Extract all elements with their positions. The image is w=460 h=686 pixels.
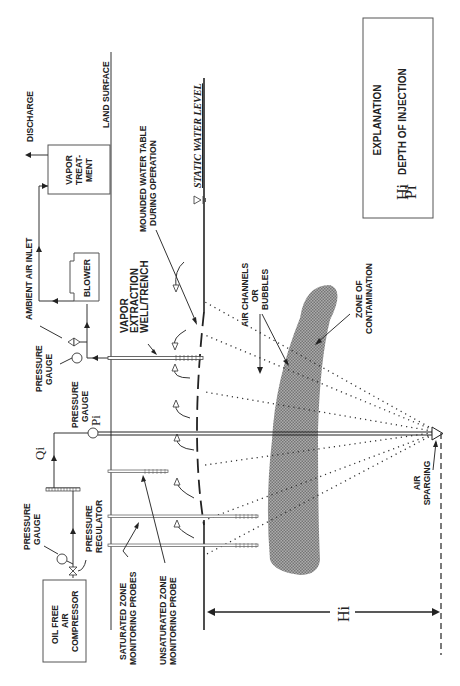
pressure-gauge-icon xyxy=(72,353,82,363)
land-surface-label: LAND SURFACE xyxy=(101,61,111,128)
saturated-probes-label-1: SATURATED ZONE xyxy=(118,583,128,660)
compressor-label-3: COMPRESSOR xyxy=(70,591,80,652)
air-sparging-diagram: EXPLANATION EXPLANATION Hi DEPTH OF INJE… xyxy=(0,0,460,686)
mounded-water-table xyxy=(197,312,204,525)
ambient-air-inlet-label: AMBIENT AIR INLET xyxy=(24,237,34,320)
pressure-regulator-label-1: PRESSURE xyxy=(84,505,94,552)
vapor-extraction-well xyxy=(108,357,203,360)
pi-symbol: Pi xyxy=(88,415,103,426)
blower-label: BLOWER xyxy=(82,259,92,297)
legend-symbol-hi: Hi xyxy=(394,183,411,200)
air-channels-label-3: BUBBLES xyxy=(260,269,270,310)
compressor-pressure-gauge-icon xyxy=(57,554,67,564)
hi-dimension: Hi xyxy=(207,605,440,622)
vapor-treatment-label-1: VAPOR xyxy=(64,155,74,185)
zone-of-contamination-label-1: ZONE OF xyxy=(354,280,364,318)
zone-of-contamination-label-2: CONTAMINATION xyxy=(364,263,374,334)
flow-meter xyxy=(46,488,80,491)
pi-pressure-gauge-icon xyxy=(88,428,98,438)
static-water-level-label: STATIC WATER LEVEL xyxy=(192,83,203,188)
legend-title-text: EXPLANATION xyxy=(372,85,383,156)
explanation-legend: EXPLANATION EXPLANATION Hi DEPTH OF INJE… xyxy=(363,18,433,218)
air-sparging-label-2: SPARGING xyxy=(422,460,432,505)
air-sparging-label-1: AIR xyxy=(412,476,422,491)
vapor-treatment-label-2: TREAT- xyxy=(74,155,84,185)
pressure-regulator-valve xyxy=(69,567,77,575)
mounded-water-table-label-1: MOUNDED WATER TABLE xyxy=(138,125,148,232)
zone-of-contamination xyxy=(268,285,338,575)
saturated-zone-probe-1 xyxy=(108,514,258,519)
ambient-air-valve xyxy=(68,338,87,346)
vapor-treatment-label-3: MENT xyxy=(84,157,94,182)
mounded-water-table-label-2: DURING OPERATION xyxy=(148,140,158,226)
air-channels-label-2: OR xyxy=(250,289,260,302)
hi-symbol: Hi xyxy=(335,605,352,622)
pressure-regulator-label-2: REGULATOR xyxy=(94,500,104,553)
unsaturated-probe-label-2: MONITORING PROBE xyxy=(168,577,178,665)
compressor-label-1: OIL FREE xyxy=(50,605,60,644)
pressure-gauge-label-3b: GAUGE xyxy=(32,514,42,546)
water-table-symbol xyxy=(194,196,201,204)
pressure-gauge-label-1a: PRESSURE xyxy=(34,345,44,392)
legend-label-hi: DEPTH OF INJECTION xyxy=(397,68,408,175)
unsaturated-probe-label-1: UNSATURATED ZONE xyxy=(158,575,168,665)
vapor-extraction-label-3: WELL/TRENCH xyxy=(139,260,150,333)
saturated-probes-label-2: MONITORING PROBES xyxy=(128,571,138,665)
air-channels-label-1: AIR CHANNELS xyxy=(240,262,250,327)
saturated-zone-probe-2 xyxy=(108,543,258,548)
pressure-gauge-label-2a: PRESSURE xyxy=(70,381,80,428)
pressure-gauge-label-3a: PRESSURE xyxy=(22,503,32,550)
pressure-gauge-label-1b: GAUGE xyxy=(44,354,54,386)
discharge-label: DISCHARGE xyxy=(25,91,35,142)
compressor-label-2: AIR xyxy=(60,613,70,628)
air-flow-arrows xyxy=(172,262,194,538)
qi-symbol: Qi xyxy=(32,447,47,460)
unsaturated-zone-probe xyxy=(108,469,168,474)
